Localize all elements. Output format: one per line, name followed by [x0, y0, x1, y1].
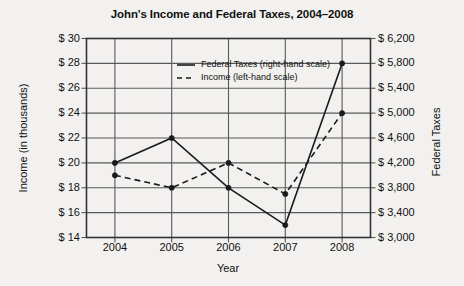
- y-axis-right-tick-label: $ 4,200: [378, 156, 415, 168]
- x-axis-tick-label: 2008: [312, 241, 372, 253]
- legend-line-dashed-icon: [176, 73, 196, 83]
- legend-item-income: Income (left-hand scale): [176, 71, 330, 84]
- y-axis-left-tick-label: $ 22: [22, 131, 80, 143]
- chart-container: John's Income and Federal Taxes, 2004–20…: [0, 0, 464, 286]
- y-axis-left-tick-label: $ 18: [22, 181, 80, 193]
- legend-label-federal-taxes: Federal Taxes (right-hand scale): [201, 58, 330, 71]
- x-axis-tick-label: 2005: [142, 241, 202, 253]
- y-axis-right-tick-label: $ 5,400: [378, 81, 415, 93]
- y-axis-left-tick-label: $ 14: [22, 231, 80, 243]
- x-axis-tick-label: 2006: [199, 241, 259, 253]
- y-axis-right-tick-label: $ 5,800: [378, 56, 415, 68]
- y-axis-right-tick-label: $ 3,000: [378, 231, 415, 243]
- legend-label-income: Income (left-hand scale): [201, 71, 298, 84]
- legend-item-federal-taxes: Federal Taxes (right-hand scale): [176, 58, 330, 71]
- y-axis-right-tick-label: $ 6,200: [378, 32, 415, 44]
- y-axis-right-tick-label: $ 3,400: [378, 206, 415, 218]
- y-axis-left-tick-label: $ 30: [22, 32, 80, 44]
- y-axis-right-tick-label: $ 3,800: [378, 181, 415, 193]
- x-axis-tick-label: 2004: [85, 241, 145, 253]
- y-axis-left-tick-label: $ 24: [22, 106, 80, 118]
- x-axis-tick-label: 2007: [255, 241, 315, 253]
- y-axis-right-tick-label: $ 4,600: [378, 131, 415, 143]
- y-axis-left-tick-label: $ 16: [22, 206, 80, 218]
- legend-line-solid-icon: [176, 60, 196, 70]
- y-axis-left-tick-label: $ 28: [22, 56, 80, 68]
- y-axis-right-tick-label: $ 5,000: [378, 106, 415, 118]
- chart-legend: Federal Taxes (right-hand scale) Income …: [176, 58, 330, 84]
- y-axis-left-tick-label: $ 20: [22, 156, 80, 168]
- y-axis-left-tick-label: $ 26: [22, 81, 80, 93]
